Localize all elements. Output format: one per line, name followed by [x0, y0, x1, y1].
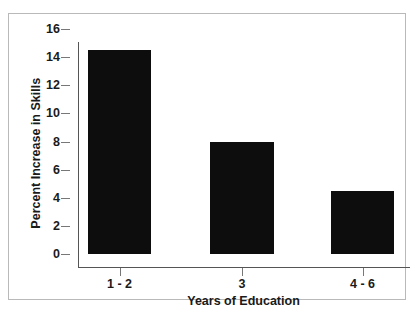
x-axis-title: Years of Education	[78, 295, 409, 309]
bar	[210, 142, 274, 255]
y-axis-tick	[61, 85, 70, 86]
bar	[88, 50, 151, 254]
x-axis-tick	[120, 268, 121, 276]
bar-chart-figure: 0246810121416 1 - 234 - 6 Years of Educa…	[0, 0, 413, 314]
bar	[331, 191, 394, 254]
y-axis-tick	[61, 29, 70, 30]
y-axis-tick-label: 16	[18, 23, 60, 36]
chart-frame: 0246810121416 1 - 234 - 6 Years of Educa…	[8, 13, 406, 300]
y-axis-tick-label: 14	[18, 51, 60, 64]
y-axis-line	[78, 42, 79, 268]
y-axis-tick	[61, 142, 70, 143]
y-axis-tick	[61, 198, 70, 199]
y-axis-title: Percent Increase in Skills	[30, 63, 43, 243]
y-axis-tick	[61, 254, 70, 255]
y-axis-tick	[61, 113, 70, 114]
x-axis-tick-label: 3	[202, 278, 282, 292]
y-axis-tick	[61, 57, 70, 58]
x-axis-line	[78, 267, 410, 268]
x-axis-tick-label: 1 - 2	[80, 278, 160, 292]
x-axis-tick	[363, 268, 364, 276]
y-axis-tick	[61, 170, 70, 171]
y-axis-tick-label: 0	[18, 248, 60, 261]
x-axis-tick-label: 4 - 6	[323, 278, 403, 292]
x-axis-tick	[242, 268, 243, 276]
y-axis-tick	[61, 226, 70, 227]
